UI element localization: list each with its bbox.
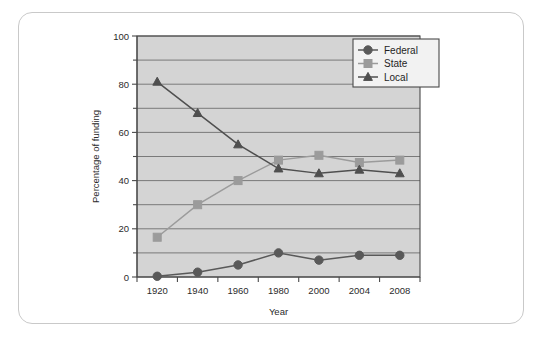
data-point-federal-1980 [274,249,282,257]
legend-entry-federal[interactable]: Federal [358,45,418,56]
y-tick-label-80: 80 [118,79,129,90]
y-tick-label-20: 20 [118,223,129,234]
y-tick-label-60: 60 [118,127,129,138]
data-point-federal-1960 [234,261,242,269]
data-point-federal-2008 [396,251,404,259]
legend-label-local: Local [384,72,408,83]
data-point-state-1960 [234,177,242,185]
x-tick-label-1940: 1940 [187,285,208,296]
x-tick-label-2008: 2008 [389,285,410,296]
y-axis-title: Percentage of funding [90,110,101,203]
y-tick-label-40: 40 [118,175,129,186]
x-tick-label-2000: 2000 [308,285,329,296]
x-tick-label-2004: 2004 [349,285,370,296]
data-point-federal-1920 [153,272,161,280]
data-point-state-1920 [153,233,161,241]
x-tick-label-1980: 1980 [268,285,289,296]
data-point-federal-1940 [193,268,201,276]
chart-canvas: 020406080100Percentage of funding1920194… [0,0,541,340]
y-tick-label-100: 100 [113,31,129,42]
data-point-state-1940 [194,201,202,209]
x-tick-label-1960: 1960 [228,285,249,296]
data-point-state-2000 [315,151,323,159]
data-point-federal-2004 [355,251,363,259]
x-tick-label-1920: 1920 [147,285,168,296]
circle-marker-icon [364,46,372,54]
data-point-federal-2000 [315,256,323,264]
legend-label-federal: Federal [384,45,418,56]
data-point-state-2008 [396,156,404,164]
funding-percentage-line-chart: 020406080100Percentage of funding1920194… [0,0,541,340]
legend-label-state: State [384,58,408,69]
square-marker-icon [364,60,372,68]
y-tick-label-0: 0 [124,272,129,283]
x-axis-title: Year [269,306,288,317]
